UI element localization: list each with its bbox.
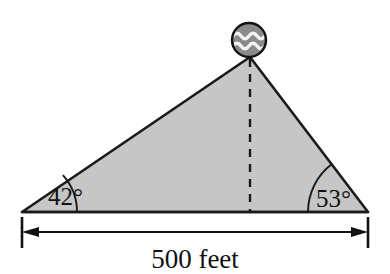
dimension-arrow <box>22 227 368 237</box>
right-angle-label: 53° <box>316 185 351 212</box>
dimension-arrowhead-left <box>22 227 39 237</box>
left-angle-label: 42° <box>48 183 83 210</box>
dimension-label: 500 feet <box>151 244 239 274</box>
dimension-arrowhead-right <box>351 227 368 237</box>
figure-canvas: 42° 53° 500 feet <box>0 0 390 274</box>
triangle-diagram-svg: 42° 53° 500 feet <box>0 0 390 274</box>
beacon-marker <box>232 23 266 57</box>
